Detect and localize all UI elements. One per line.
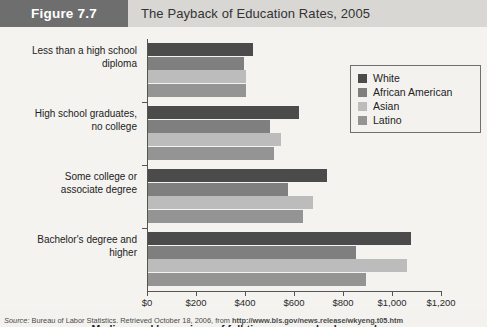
bar-latino — [148, 210, 303, 223]
category-label-line2: associate degree — [0, 184, 137, 197]
legend-swatch-african-american — [358, 88, 367, 97]
legend-label-asian: Asian — [373, 100, 399, 112]
bar-white — [148, 106, 299, 119]
x-tick-mark — [147, 291, 148, 296]
x-tick-mark — [441, 291, 442, 296]
legend-label-african-american: African American — [373, 86, 452, 98]
category-label-line2: higher — [0, 247, 137, 260]
category-label-line1: High school graduates, — [0, 108, 137, 121]
legend-item-african-american: African American — [358, 85, 474, 99]
bar-group — [148, 232, 442, 284]
bar-latino — [148, 147, 274, 160]
y-tick-mark — [142, 102, 147, 103]
source-note: Source: Bureau of Labor Statistics. Retr… — [4, 316, 487, 325]
source-prefix: Source: — [4, 316, 29, 325]
bar-latino — [148, 273, 366, 286]
x-tick-label: $600 — [283, 297, 304, 308]
bar-asian — [148, 133, 281, 146]
bar-african-american — [148, 246, 356, 259]
bar-african-american — [148, 57, 244, 70]
bar-group — [148, 169, 442, 221]
bar-latino — [148, 84, 246, 97]
figure-number-tag: Figure 7.7 — [0, 0, 128, 27]
category-label-line1: Bachelor's degree and — [0, 234, 137, 247]
legend-item-white: White — [358, 71, 474, 85]
legend-swatch-asian — [358, 102, 367, 111]
x-tick-label: $1,000 — [377, 297, 406, 308]
chart-canvas: $0$200$400$600$800$1,000$1,200 Less than… — [0, 27, 487, 310]
category-label-line2: diploma — [0, 58, 137, 71]
source-text: Bureau of Labor Statistics. Retrieved Oc… — [29, 316, 232, 325]
category-label-line1: Some college or — [0, 171, 137, 184]
bar-asian — [148, 196, 313, 209]
x-tick-mark — [294, 291, 295, 296]
legend-swatch-latino — [358, 116, 367, 125]
x-tick-label: $0 — [142, 297, 153, 308]
category-label: High school graduates,no college — [0, 108, 137, 133]
bar-white — [148, 43, 253, 56]
bar-white — [148, 232, 411, 245]
figure-header: Figure 7.7 The Payback of Education Rate… — [0, 0, 487, 27]
legend-item-asian: Asian — [358, 99, 474, 113]
bar-asian — [148, 259, 407, 272]
bar-white — [148, 169, 327, 182]
x-tick-label: $400 — [234, 297, 255, 308]
bar-asian — [148, 70, 246, 83]
category-label: Bachelor's degree andhigher — [0, 234, 137, 259]
legend-label-latino: Latino — [373, 114, 402, 126]
category-label: Less than a high schooldiploma — [0, 45, 137, 70]
legend-swatch-white — [358, 74, 367, 83]
bar-african-american — [148, 183, 288, 196]
x-tick-mark — [343, 291, 344, 296]
x-tick-label: $200 — [185, 297, 206, 308]
x-tick-mark — [245, 291, 246, 296]
x-tick-label: $800 — [332, 297, 353, 308]
legend-label-white: White — [373, 72, 400, 84]
category-label: Some college orassociate degree — [0, 171, 137, 196]
x-tick-label: $1,200 — [426, 297, 455, 308]
figure-container: Figure 7.7 The Payback of Education Rate… — [0, 0, 487, 327]
y-tick-mark — [142, 165, 147, 166]
source-url[interactable]: http://www.bls.gov/news.release/wkyeng.t… — [232, 316, 403, 325]
bar-african-american — [148, 120, 270, 133]
legend-item-latino: Latino — [358, 113, 474, 127]
x-tick-mark — [392, 291, 393, 296]
figure-title: The Payback of Education Rates, 2005 — [128, 0, 487, 27]
category-label-line1: Less than a high school — [0, 45, 137, 58]
y-tick-mark — [142, 228, 147, 229]
chart-legend: White African American Asian Latino — [350, 65, 481, 133]
category-label-line2: no college — [0, 121, 137, 134]
x-tick-mark — [196, 291, 197, 296]
